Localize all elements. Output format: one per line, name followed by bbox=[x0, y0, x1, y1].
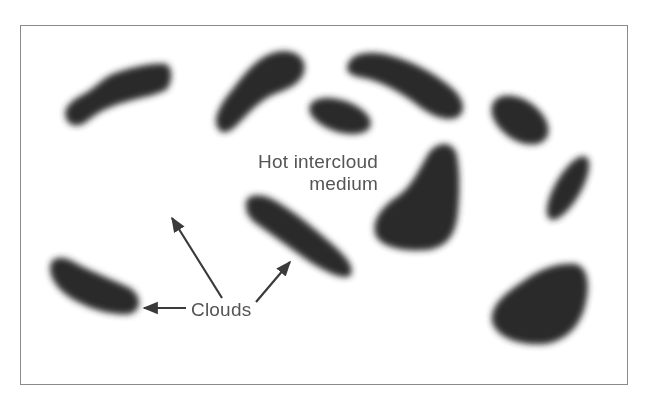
cloud-3 bbox=[347, 53, 463, 119]
cloud-7 bbox=[539, 150, 598, 225]
intercloud-label-line2: medium bbox=[258, 173, 378, 195]
arrow-up-left bbox=[172, 218, 222, 298]
cloud-1 bbox=[65, 63, 171, 125]
cloud-5 bbox=[482, 85, 557, 154]
cloud-9 bbox=[50, 258, 139, 315]
arrow-to-middle-cloud bbox=[256, 262, 290, 302]
cloud-illustration bbox=[0, 0, 649, 400]
cloud-4 bbox=[305, 91, 376, 141]
cloud-8 bbox=[246, 195, 352, 277]
cloud-10 bbox=[492, 264, 588, 345]
hot-intercloud-medium-label: Hot intercloud medium bbox=[258, 151, 378, 195]
intercloud-label-line1: Hot intercloud bbox=[258, 151, 378, 172]
cloud-6 bbox=[374, 144, 459, 251]
clouds-label: Clouds bbox=[191, 299, 251, 321]
cloud-2 bbox=[216, 51, 305, 132]
